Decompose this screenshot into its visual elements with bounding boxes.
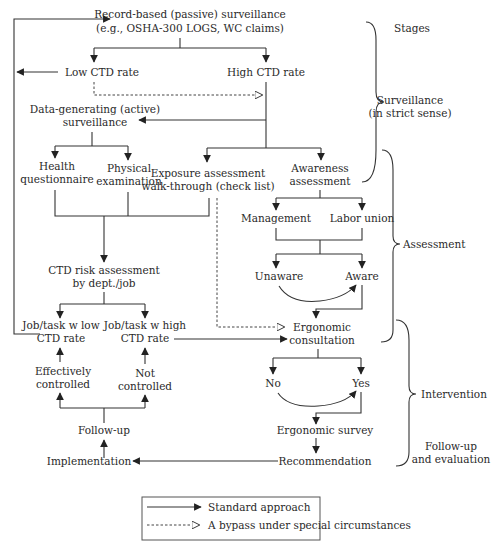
svg-text:Exposure assessment: Exposure assessment <box>151 167 266 179</box>
node-data-generating: Data-generating (active) surveillance <box>30 103 160 128</box>
svg-text:surveillance: surveillance <box>63 116 128 128</box>
svg-text:Data-generating (active): Data-generating (active) <box>30 103 160 115</box>
stage-followup-evaluation: Follow-up and evaluation <box>412 440 491 465</box>
svg-text:and evaluation: and evaluation <box>412 453 491 465</box>
node-awareness-assessment: Awareness assessment <box>289 162 351 187</box>
svg-text:Record-based (passive) surveil: Record-based (passive) surveillance <box>94 8 286 20</box>
node-labor-union: Labor union <box>330 212 395 224</box>
flow-lines <box>14 19 362 461</box>
node-ergonomic-consultation: Ergonomic consultation <box>289 321 355 346</box>
svg-text:walk-through (check list): walk-through (check list) <box>141 180 274 192</box>
svg-text:Not: Not <box>135 367 156 379</box>
node-unaware: Unaware <box>255 270 303 282</box>
stage-assessment: Assessment <box>402 238 466 250</box>
node-aware: Aware <box>344 270 379 282</box>
svg-text:assessment: assessment <box>289 175 351 187</box>
node-low-ctd: Low CTD rate <box>65 66 139 78</box>
brace-intervention <box>396 320 416 466</box>
node-yes: Yes <box>351 377 370 389</box>
svg-text:questionnaire: questionnaire <box>20 173 93 185</box>
node-effectively-controlled: Effectively controlled <box>35 365 91 390</box>
svg-text:Awareness: Awareness <box>290 162 348 174</box>
legend-standard-label: Standard approach <box>208 501 311 513</box>
svg-text:CTD rate: CTD rate <box>37 332 86 344</box>
node-job-high: Job/task w high CTD rate <box>103 319 187 344</box>
svg-text:by dept./job: by dept./job <box>72 277 135 289</box>
stage-surveillance: Surveillance (in strict sense) <box>368 94 451 119</box>
node-implementation: Implementation <box>47 455 132 467</box>
node-high-ctd: High CTD rate <box>227 66 305 78</box>
node-management: Management <box>241 212 312 224</box>
brace-assessment <box>381 150 400 342</box>
stage-header: Stages <box>394 22 430 34</box>
node-not-controlled: Not controlled <box>118 367 172 392</box>
svg-text:CTD rate: CTD rate <box>121 332 170 344</box>
svg-text:Follow-up: Follow-up <box>425 440 477 452</box>
node-follow-up: Follow-up <box>78 424 130 436</box>
ctd-surveillance-flowchart: Record-based (passive) surveillance (e.g… <box>0 0 491 555</box>
legend-bypass-label: A bypass under special circumstances <box>207 519 411 531</box>
svg-text:Job/task w low: Job/task w low <box>21 319 99 331</box>
svg-text:controlled: controlled <box>36 378 90 390</box>
svg-text:controlled: controlled <box>118 380 172 392</box>
node-exposure-assessment: Exposure assessment walk-through (check … <box>141 167 274 192</box>
brace-surveillance <box>362 22 384 182</box>
node-ergonomic-survey: Ergonomic survey <box>277 424 374 436</box>
node-no: No <box>265 377 281 389</box>
node-record-based: Record-based (passive) surveillance (e.g… <box>94 8 286 34</box>
svg-text:CTD risk assessment: CTD risk assessment <box>48 264 160 276</box>
svg-text:Health: Health <box>39 160 75 172</box>
stage-intervention: Intervention <box>421 388 487 400</box>
node-health-questionnaire: Health questionnaire <box>20 160 93 185</box>
svg-text:Ergonomic: Ergonomic <box>293 321 351 333</box>
node-ctd-risk-assessment: CTD risk assessment by dept./job <box>48 264 160 289</box>
node-job-low: Job/task w low CTD rate <box>21 319 99 344</box>
svg-text:(e.g., OSHA-300 LOGS, WC claim: (e.g., OSHA-300 LOGS, WC claims) <box>96 22 284 34</box>
svg-text:Effectively: Effectively <box>35 365 91 377</box>
legend: Standard approach A bypass under special… <box>142 497 411 540</box>
svg-text:(in strict sense): (in strict sense) <box>368 107 451 119</box>
svg-text:consultation: consultation <box>289 334 355 346</box>
svg-text:Job/task w high: Job/task w high <box>103 319 187 331</box>
svg-text:Physical: Physical <box>107 162 152 174</box>
svg-text:Surveillance: Surveillance <box>377 94 443 106</box>
node-recommendation: Recommendation <box>279 455 372 467</box>
